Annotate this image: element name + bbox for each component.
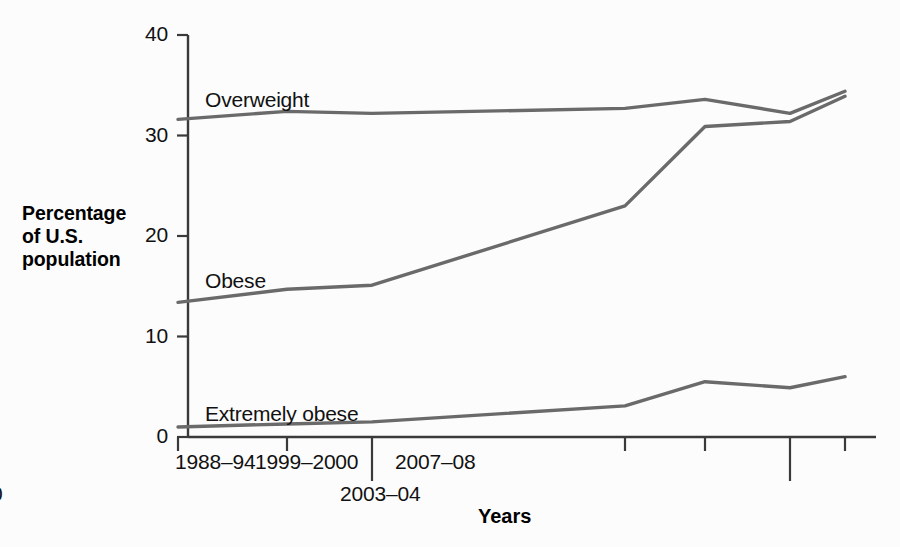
series-label-obese: Obese bbox=[205, 269, 266, 293]
series-polylines bbox=[178, 91, 845, 427]
y-axis-title-line-3: population bbox=[22, 248, 126, 271]
series-label-overweight: Overweight bbox=[205, 88, 309, 112]
x-tick-label: 2007–08 bbox=[395, 450, 475, 474]
y-tick-label: 0 bbox=[0, 424, 168, 448]
x-axis-title: Years bbox=[478, 505, 531, 528]
x-tick-label: 1999–2000 bbox=[255, 450, 358, 474]
series-label-extremely-obese: Extremely obese bbox=[205, 402, 358, 426]
series-line-obese bbox=[178, 96, 845, 302]
obesity-trends-chart: 010203040 1960–621971–741976–801988–9419… bbox=[0, 0, 900, 547]
x-tick-label: 2003–04 bbox=[340, 482, 420, 506]
x-tick-label: 1976–80 bbox=[0, 482, 2, 506]
y-axis-title-line-2: of U.S. bbox=[22, 225, 126, 248]
y-tick-label: 10 bbox=[0, 324, 168, 348]
x-tick-label: 1988–94 bbox=[175, 450, 255, 474]
y-tick-marks bbox=[177, 35, 188, 437]
y-axis-title-line-1: Percentage bbox=[22, 202, 126, 225]
y-axis-title: Percentage of U.S. population bbox=[22, 202, 126, 271]
y-tick-label: 30 bbox=[0, 123, 168, 147]
y-tick-label: 40 bbox=[0, 22, 168, 46]
